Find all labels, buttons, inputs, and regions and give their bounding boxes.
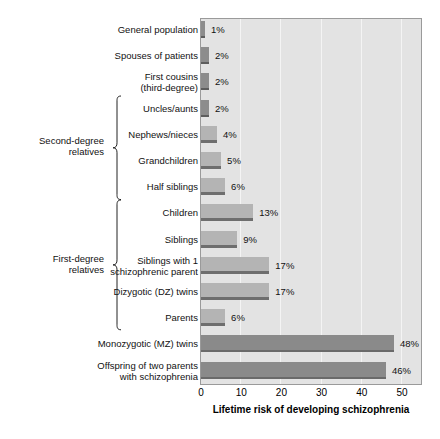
- bar-value-label: 1%: [211, 24, 225, 35]
- bar-row: General population1%: [0, 21, 440, 50]
- bar-category-label: Offspring of two parentswith schizophren…: [38, 360, 198, 382]
- bar-value-label: 5%: [227, 155, 241, 166]
- bar: [201, 309, 225, 326]
- bar-value-label: 46%: [392, 365, 411, 376]
- x-tick-label: 0: [198, 387, 204, 399]
- bar-value-label: 48%: [400, 338, 419, 349]
- bar-value-label: 4%: [223, 129, 237, 140]
- bar: [201, 178, 225, 195]
- bar-category-label-line: First cousins: [38, 71, 198, 82]
- bar-row: Dizygotic (DZ) twins17%: [0, 283, 440, 312]
- bar-category-label: Spouses of patients: [38, 50, 198, 61]
- bar-row: Uncles/aunts2%: [0, 100, 440, 129]
- bar: [201, 257, 269, 274]
- schizophrenia-risk-bar-chart: General population1%Spouses of patients2…: [0, 0, 440, 439]
- bar-row: First cousins(third-degree)2%: [0, 73, 440, 102]
- bar-category-label: Monozygotic (MZ) twins: [38, 338, 198, 349]
- bar: [201, 152, 221, 169]
- bar-category-label-line: Monozygotic (MZ) twins: [38, 338, 198, 349]
- bar: [201, 283, 269, 300]
- curly-brace-icon: [110, 95, 124, 201]
- bar: [201, 204, 253, 221]
- bar: [201, 73, 209, 90]
- group-label-line: First-degree: [14, 253, 104, 264]
- bar: [201, 335, 394, 352]
- bar-row: Parents6%: [0, 309, 440, 338]
- bar: [201, 126, 217, 143]
- x-tick-label: 40: [356, 387, 367, 399]
- bar-value-label: 2%: [215, 103, 229, 114]
- bar: [201, 100, 209, 117]
- group-bracket-second-degree: [110, 95, 124, 201]
- bar-value-label: 13%: [259, 207, 278, 218]
- x-tick-label: 20: [276, 387, 287, 399]
- x-axis-title: Lifetime risk of developing schizophreni…: [200, 404, 422, 415]
- group-bracket-first-degree: [110, 199, 124, 331]
- group-label-line: Second-degree: [14, 135, 104, 146]
- bar: [201, 47, 209, 64]
- bar-category-label-line: General population: [38, 24, 198, 35]
- bar-value-label: 9%: [243, 234, 257, 245]
- bar: [201, 231, 237, 248]
- bar: [201, 362, 386, 379]
- bar-value-label: 17%: [275, 286, 294, 297]
- curly-brace-icon: [110, 199, 124, 331]
- bar-category-label-line: with schizophrenia: [38, 371, 198, 382]
- x-tick-label: 10: [236, 387, 247, 399]
- bar-value-label: 2%: [215, 50, 229, 61]
- bar-row: Children13%: [0, 204, 440, 233]
- bar-category-label-line: (third-degree): [38, 82, 198, 93]
- bar-category-label: General population: [38, 24, 198, 35]
- bar-category-label-line: Offspring of two parents: [38, 360, 198, 371]
- bar-category-label-line: Spouses of patients: [38, 50, 198, 61]
- bar-row: Half siblings6%: [0, 178, 440, 207]
- bar-value-label: 6%: [231, 312, 245, 323]
- bar-value-label: 6%: [231, 181, 245, 192]
- x-tick-label: 30: [316, 387, 327, 399]
- group-label-first-degree: First-degreerelatives: [14, 253, 104, 275]
- x-tick-label: 50: [396, 387, 407, 399]
- group-label-line: relatives: [14, 146, 104, 157]
- group-label-line: relatives: [14, 264, 104, 275]
- x-axis: 01020304050: [200, 387, 422, 401]
- bar: [201, 21, 205, 38]
- bar-value-label: 2%: [215, 76, 229, 87]
- bar-category-label: First cousins(third-degree): [38, 71, 198, 93]
- bar-value-label: 17%: [275, 260, 294, 271]
- group-label-second-degree: Second-degreerelatives: [14, 135, 104, 157]
